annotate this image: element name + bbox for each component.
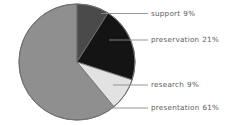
pie-label-support-name: support	[151, 9, 180, 18]
pie-label-support: support9%	[151, 10, 195, 17]
pie-label-presentation-name: presentation	[151, 103, 200, 112]
pie-label-research: research9%	[151, 81, 199, 88]
pie-label-preservation: preservation21%	[151, 36, 219, 43]
pie-label-support-value: 9%	[183, 9, 195, 18]
pie-label-research-value: 9%	[187, 80, 199, 89]
pie-label-presentation: presentation61%	[151, 104, 219, 111]
pie-slices	[19, 4, 135, 120]
pie-label-preservation-value: 21%	[202, 35, 219, 44]
pie-label-presentation-value: 61%	[203, 103, 220, 112]
pie-chart: support9% preservation21% research9% pre…	[0, 0, 228, 125]
pie-label-preservation-name: preservation	[151, 35, 199, 44]
pie-label-research-name: research	[151, 80, 184, 89]
